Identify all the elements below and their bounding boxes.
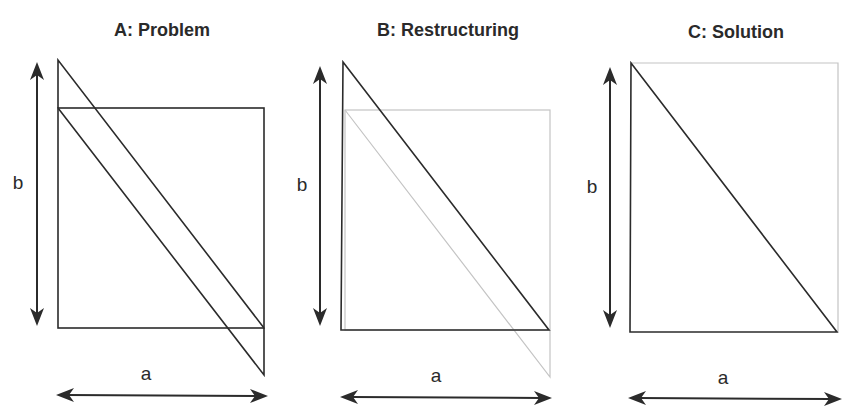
panel-b-title: B: Restructuring xyxy=(377,20,519,40)
panel-a-label-a: a xyxy=(141,363,152,384)
panel-b-b-arrow xyxy=(313,66,327,326)
panel-b-ghost-parallelogram xyxy=(345,110,550,377)
panel-b-label-a: a xyxy=(431,365,442,386)
panel-a-b-arrow xyxy=(30,62,44,326)
panel-a-triangle-lower-edge xyxy=(58,108,264,375)
panel-a-title: A: Problem xyxy=(114,20,210,40)
panel-b-label-b: b xyxy=(297,174,308,195)
panel-a-label-b: b xyxy=(13,172,24,193)
panel-c-a-arrow xyxy=(628,391,842,406)
panel-b-a-arrow xyxy=(340,390,552,405)
panel-c-triangle xyxy=(630,63,837,332)
panel-a-triangle-upper-edge xyxy=(58,60,264,328)
panel-b: B: Restructuring b a xyxy=(297,20,552,405)
geometry-diagram: A: Problem b a B: Restructuring b a xyxy=(0,0,855,418)
panel-b-triangle xyxy=(341,62,549,330)
panel-b-ghost-square xyxy=(345,110,550,330)
panel-c: C: Solution b a xyxy=(587,22,842,406)
panel-c-title: C: Solution xyxy=(688,22,784,42)
panel-a: A: Problem b a xyxy=(13,20,268,403)
panel-a-square xyxy=(58,108,264,328)
panel-a-a-arrow xyxy=(56,388,268,403)
panel-c-label-a: a xyxy=(718,367,729,388)
panel-c-b-arrow xyxy=(603,67,617,328)
panel-c-label-b: b xyxy=(587,176,598,197)
